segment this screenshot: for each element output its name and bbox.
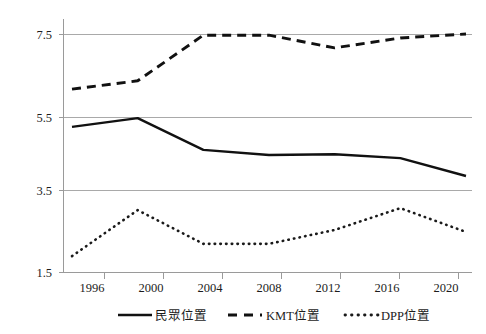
x-axis-label-2000: 2000 (139, 281, 164, 295)
legend-label-kmt: KMT位置 (266, 308, 320, 323)
x-axis-label-2008: 2008 (257, 281, 282, 295)
y-axis-label-2: 3.5 (36, 184, 52, 198)
chart-canvas: 7.5 5.5 3.5 1.5 1996 2000 2004 2008 2012… (0, 0, 486, 334)
legend-label-public: 民眾位置 (155, 308, 207, 323)
x-axis-labels: 1996 2000 2004 2008 2012 2016 2020 (80, 281, 459, 295)
x-tickmarks (105, 273, 459, 279)
y-tickmarks (59, 35, 64, 273)
y-axis-label-1: 5.5 (36, 111, 52, 125)
series-kmt-line (72, 34, 466, 89)
series-dpp-line (72, 208, 466, 256)
gridlines (64, 35, 472, 191)
x-axis-label-2004: 2004 (198, 281, 224, 295)
legend-label-dpp: DPP位置 (381, 308, 430, 323)
axes (64, 19, 472, 273)
x-axis-label-1996: 1996 (80, 281, 105, 295)
x-axis-label-2012: 2012 (316, 281, 341, 295)
y-axis-labels: 7.5 5.5 3.5 1.5 (36, 28, 52, 280)
x-axis-label-2016: 2016 (375, 281, 400, 295)
legend: 民眾位置 KMT位置 DPP位置 (118, 308, 430, 323)
y-axis-label-3: 1.5 (36, 266, 52, 280)
series-public-line (72, 118, 466, 176)
series-group (72, 34, 466, 256)
line-chart: 7.5 5.5 3.5 1.5 1996 2000 2004 2008 2012… (0, 0, 486, 334)
x-axis-label-2020: 2020 (434, 281, 459, 295)
y-axis-label-0: 7.5 (36, 28, 52, 42)
